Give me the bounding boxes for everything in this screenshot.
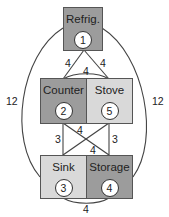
weight-counter-stove: 4 [83,66,89,77]
weight-refrig-counter: 4 [65,58,71,69]
node-label: Counter [43,83,84,97]
weight-stove-sink: 4 [90,145,96,156]
node-label: Storage [89,160,129,174]
node-label: Stove [95,83,124,97]
weight-counter-storage: 4 [77,125,83,136]
weight-sink-storage: 4 [83,204,89,215]
node-number-circle: 5 [101,102,119,120]
node-number-circle: 1 [74,31,92,49]
weight-refrig-sink: 12 [6,96,18,107]
node-label: Refrig. [66,12,100,26]
node-counter: Counter 2 [40,78,87,124]
node-stove: Stove 5 [86,78,133,124]
node-storage: Storage 4 [86,155,133,199]
node-number-circle: 4 [101,179,119,197]
weight-stove-storage: 3 [112,134,118,145]
weight-refrig-storage: 12 [152,96,164,107]
node-refrig: Refrig. 1 [63,7,103,51]
node-number-circle: 2 [55,102,73,120]
weight-counter-sink: 3 [55,134,61,145]
node-label: Sink [52,160,74,174]
weight-refrig-stove: 4 [100,58,106,69]
node-number-circle: 3 [55,179,73,197]
node-sink: Sink 3 [40,155,87,199]
